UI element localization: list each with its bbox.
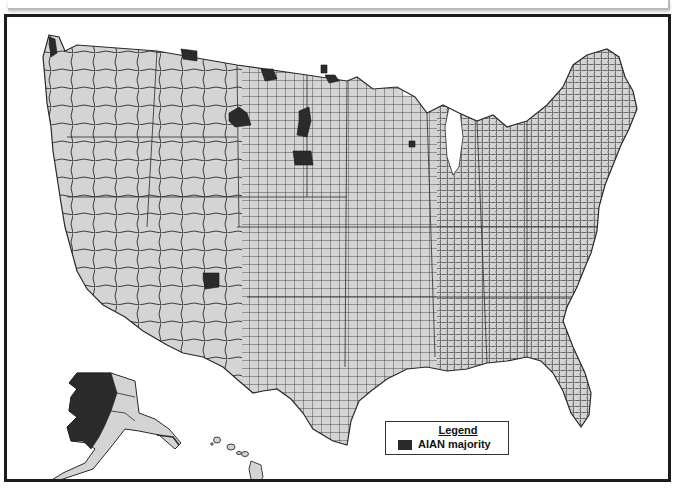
map-legend: Legend AIAN majority — [385, 421, 509, 455]
majority-county-nd-rolette — [321, 65, 327, 73]
hawaii-inset — [211, 437, 263, 479]
legend-label-aian-majority: AIAN majority — [418, 438, 491, 450]
us-county-map — [7, 17, 668, 479]
majority-county-wi-menominee — [409, 141, 415, 147]
legend-title: Legend — [386, 424, 508, 436]
majority-county-sd-shannon-todd — [293, 151, 313, 165]
alaska-inset — [47, 373, 181, 479]
top-panel-edge — [8, 0, 670, 10]
map-frame: Legend AIAN majority — [4, 14, 671, 482]
legend-swatch-aian-majority — [398, 440, 412, 450]
majority-county-az-nm-apache — [203, 273, 219, 289]
majority-county-mt-glacier — [181, 49, 197, 61]
